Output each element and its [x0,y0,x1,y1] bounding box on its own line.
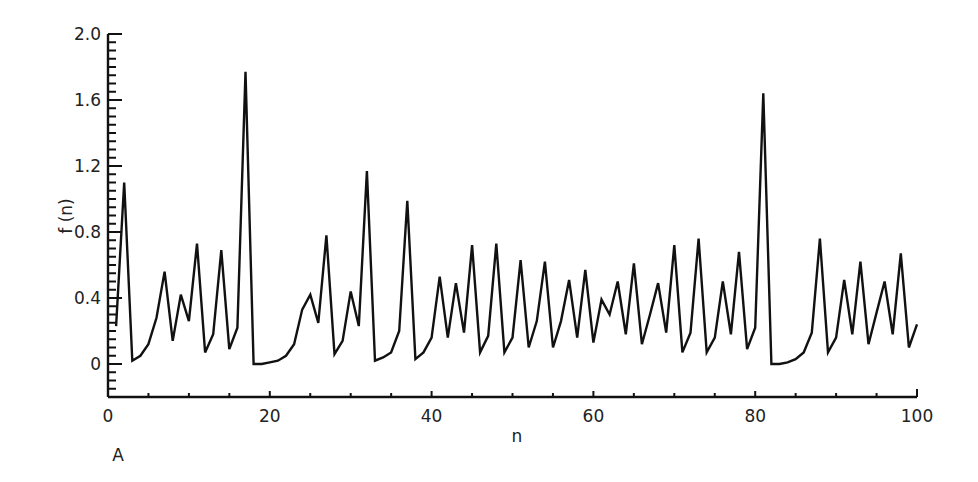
y-tick-label: 1.2 [74,156,101,176]
x-axis: 020406080100 [103,389,934,426]
panel-label: A [112,445,124,465]
x-tick-label: 40 [421,406,443,426]
data-series-line [116,72,917,364]
y-tick-label: 0.8 [74,222,101,242]
x-tick-label: 0 [103,406,114,426]
y-tick-label: 1.6 [74,90,101,110]
y-axis-title: f (n) [56,198,76,233]
y-axis: 00.40.81.21.62.0 [74,24,122,397]
y-tick-label: 0.4 [74,288,101,308]
line-chart: 00.40.81.21.62.0 020406080100 f (n) n A [0,0,978,482]
y-tick-label: 2.0 [74,24,101,44]
x-axis-title: n [512,426,523,446]
x-tick-label: 100 [901,406,933,426]
x-tick-label: 20 [259,406,281,426]
y-tick-label: 0 [90,354,101,374]
x-tick-label: 60 [583,406,605,426]
x-tick-label: 80 [744,406,766,426]
